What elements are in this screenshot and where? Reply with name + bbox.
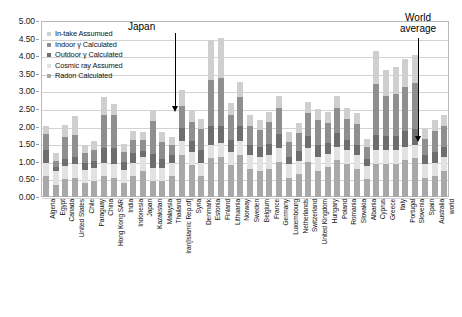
bar-segment — [441, 115, 447, 126]
legend-swatch-icon — [47, 53, 51, 57]
bar-segment — [422, 164, 428, 177]
bar-segment — [111, 164, 117, 177]
x-tick-slot: Poland — [333, 199, 343, 315]
bar-segment — [383, 136, 389, 150]
x-tick-slot: Paraguay — [90, 199, 100, 315]
bar-slot — [362, 21, 372, 197]
bar-slot — [342, 21, 352, 197]
bar-slot — [284, 21, 294, 197]
bar-segment — [266, 122, 272, 144]
world-average-line2: average — [400, 23, 436, 34]
legend-item: Outdoor γ Calculated — [47, 50, 159, 60]
y-tick-label: 3.00 — [19, 87, 35, 96]
bar-segment — [101, 97, 107, 115]
bar-segment — [159, 142, 165, 159]
legend-item: Indoor γ Calculated — [47, 40, 159, 50]
bar-segment — [266, 169, 272, 197]
bar-segment — [111, 104, 117, 115]
bar-slot — [313, 21, 323, 197]
bar-segment — [218, 143, 224, 156]
stacked-bar — [237, 82, 243, 197]
x-tick-slot: Albania — [362, 199, 372, 315]
bar-segment — [296, 151, 302, 161]
radiation-dose-bar-chart: 5.004.504.003.503.002.502.001.501.000.50… — [0, 0, 462, 317]
y-tick-mark — [36, 179, 39, 180]
y-tick-label: 1.00 — [19, 157, 35, 166]
bar-segment — [383, 164, 389, 197]
bar-segment — [101, 115, 107, 148]
bar-segment — [189, 141, 195, 152]
y-tick-label: 5.00 — [19, 17, 35, 26]
stacked-bar — [383, 70, 389, 197]
bar-segment — [257, 120, 263, 130]
legend-swatch-icon — [47, 43, 51, 47]
bar-segment — [218, 157, 224, 197]
y-tick-mark — [36, 127, 39, 128]
bar-segment — [364, 139, 370, 147]
bar-segment — [43, 176, 49, 197]
bar-segment — [198, 119, 204, 130]
bar-segment — [130, 163, 136, 176]
x-axis: AlgeriaEgyptCanadaUnited StatesChilePara… — [41, 199, 449, 315]
stacked-bar — [432, 120, 438, 197]
bar-segment — [121, 144, 127, 152]
stacked-bar — [402, 59, 408, 197]
bar-segment — [140, 171, 146, 197]
bar-segment — [208, 126, 214, 145]
bar-segment — [276, 148, 282, 161]
bar-segment — [237, 126, 243, 142]
legend-swatch-icon — [47, 74, 51, 78]
x-tick-slot: Thailand — [167, 199, 177, 315]
bar-segment — [266, 155, 272, 168]
legend-item-label: In-take Assumued — [55, 30, 113, 38]
stacked-bar — [179, 90, 185, 197]
x-tick-slot: India — [119, 199, 129, 315]
bar-segment — [150, 154, 156, 168]
legend-item-label: Outdoor γ Calculated — [55, 51, 122, 59]
bar-segment — [334, 147, 340, 160]
bar-slot — [401, 21, 411, 197]
bar-segment — [140, 157, 146, 170]
stacked-bar — [266, 112, 272, 197]
stacked-bar — [169, 137, 175, 197]
x-tick-slot: Estonia — [206, 199, 216, 315]
bar-segment — [72, 116, 78, 135]
bar-slot — [216, 21, 226, 197]
bar-segment — [373, 51, 379, 84]
bar-segment — [402, 131, 408, 147]
bar-segment — [334, 160, 340, 197]
x-tick-slot: Indonesia — [128, 199, 138, 315]
x-tick-slot: Switzerland — [303, 199, 313, 315]
stacked-bar — [43, 126, 49, 197]
bar-segment — [237, 141, 243, 154]
bar-segment — [296, 133, 302, 151]
bar-slot — [352, 21, 362, 197]
bar-segment — [305, 102, 311, 113]
bar-segment — [383, 96, 389, 136]
bar-segment — [82, 153, 88, 164]
bar-segment — [441, 147, 447, 158]
bar-segment — [393, 67, 399, 93]
x-tick-slot: Portugal — [401, 199, 411, 315]
stacked-bar — [82, 145, 88, 197]
bar-segment — [228, 140, 234, 152]
bar-segment — [101, 163, 107, 176]
y-tick-label: 0.00 — [19, 193, 35, 202]
bar-segment — [198, 129, 204, 150]
x-tick-slot: Belgium — [255, 199, 265, 315]
x-tick-slot: United Kingdom — [313, 199, 323, 315]
bar-segment — [179, 141, 185, 154]
bar-slot — [226, 21, 236, 197]
x-tick-slot: Hong Kong SAR — [109, 199, 119, 315]
stacked-bar — [218, 38, 224, 197]
world-average-annotation-label: World average — [400, 12, 436, 34]
bar-segment — [412, 158, 418, 197]
bar-segment — [208, 145, 214, 158]
y-axis: 5.004.504.003.503.002.502.001.501.000.50… — [0, 21, 39, 197]
bar-segment — [315, 157, 321, 170]
bar-segment — [62, 179, 68, 197]
bar-segment — [228, 165, 234, 197]
stacked-bar — [150, 111, 156, 197]
bar-segment — [364, 179, 370, 197]
bar-segment — [189, 111, 195, 122]
